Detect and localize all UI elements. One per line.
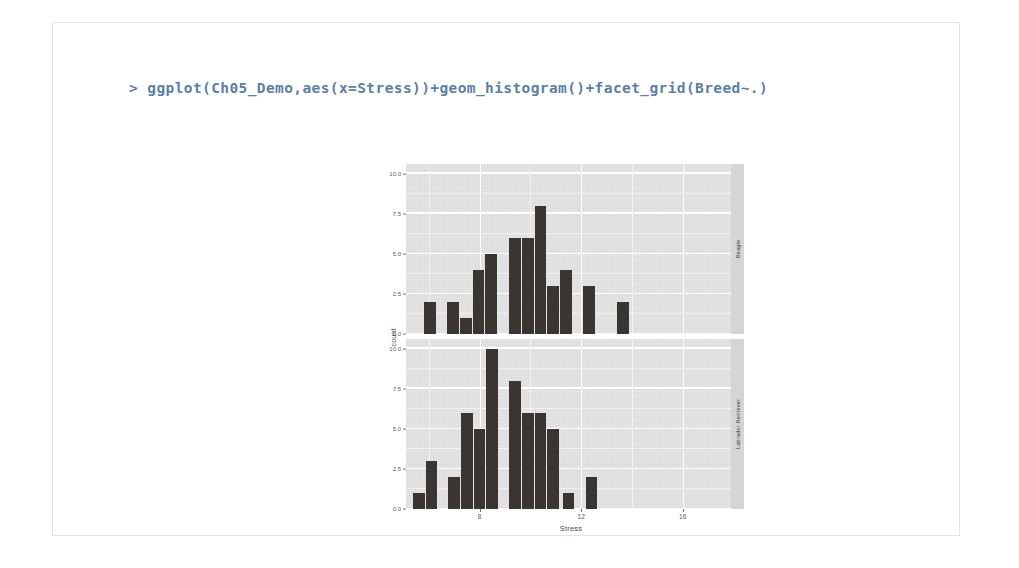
histogram-bar (424, 302, 436, 334)
histogram-bar (447, 302, 459, 334)
histogram-bar (535, 206, 547, 334)
histogram-bar (583, 286, 595, 334)
y-axis-title: count (390, 308, 397, 368)
histogram-bar (586, 477, 598, 509)
y-tick-label: 5.0 (367, 251, 401, 257)
gridline-minor-vertical (632, 339, 633, 509)
histogram-bar (485, 254, 497, 334)
y-tick-label: 2.5 (367, 291, 401, 297)
y-tick-mark (403, 388, 406, 389)
x-tick-mark (683, 509, 684, 512)
gridline-minor-vertical (632, 164, 633, 334)
y-tick-label: 10.0 (367, 171, 401, 177)
x-tick-label: 16 (670, 513, 696, 520)
y-tick-mark (403, 468, 406, 469)
y-tick-mark (403, 253, 406, 254)
histogram-bar (461, 413, 473, 509)
histogram-bar (522, 238, 534, 334)
x-tick-mark (480, 509, 481, 512)
facet-strip-label: Beagle (735, 240, 741, 259)
histogram-bar (563, 493, 575, 509)
gridline-major-vertical (581, 339, 582, 509)
y-tick-mark (403, 173, 406, 174)
histogram-bar (509, 381, 521, 509)
y-tick-mark (403, 334, 406, 335)
x-axis-title: Stress (401, 524, 741, 533)
x-tick-label: 8 (467, 513, 493, 520)
gridline-major-vertical (683, 339, 684, 509)
histogram-bar (617, 302, 629, 334)
histogram-bar (486, 349, 498, 509)
histogram-bar (426, 461, 438, 509)
gridline-major-vertical (683, 164, 684, 334)
histogram-bar (460, 318, 472, 334)
console-card: > ggplot(Ch05_Demo,aes(x=Stress))+geom_h… (52, 22, 960, 536)
y-tick-label: 0.0 (367, 506, 401, 512)
facet-strip-labrador-retriever: Labrador Retriever (731, 339, 744, 509)
r-command-line: > ggplot(Ch05_Demo,aes(x=Stress))+geom_h… (129, 80, 768, 96)
y-tick-mark (403, 213, 406, 214)
facet-panel-labrador-retriever (406, 339, 731, 509)
y-tick-label: 0.0 (367, 331, 401, 337)
ggplot-figure: count Beagle Labrador Retriever 0.02.55.… (361, 156, 751, 534)
histogram-bar (547, 286, 559, 334)
facet-strip-label: Labrador Retriever (735, 399, 741, 449)
y-tick-label: 10.0 (367, 346, 401, 352)
histogram-bar (509, 238, 521, 334)
screenshot-root: > ggplot(Ch05_Demo,aes(x=Stress))+geom_h… (0, 0, 1019, 568)
histogram-bar (413, 493, 425, 509)
histogram-bar (547, 429, 559, 509)
y-tick-mark (403, 293, 406, 294)
y-tick-mark (403, 428, 406, 429)
histogram-bar (535, 413, 547, 509)
y-tick-label: 5.0 (367, 426, 401, 432)
x-tick-label: 12 (568, 513, 594, 520)
histogram-bar (474, 429, 486, 509)
histogram-bar (560, 270, 572, 334)
y-tick-mark (403, 509, 406, 510)
x-tick-mark (581, 509, 582, 512)
y-tick-label: 2.5 (367, 466, 401, 472)
y-tick-label: 7.5 (367, 386, 401, 392)
y-tick-mark (403, 348, 406, 349)
histogram-bar (522, 413, 534, 509)
facet-panel-beagle (406, 164, 731, 334)
facet-strip-beagle: Beagle (731, 164, 744, 334)
histogram-bar (473, 270, 485, 334)
y-tick-label: 7.5 (367, 211, 401, 217)
histogram-bar (448, 477, 460, 509)
